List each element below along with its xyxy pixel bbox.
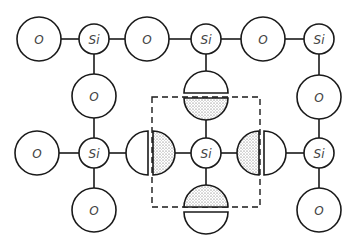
shared-oxygen-bottom <box>184 185 228 234</box>
shared-oxygen-left <box>126 131 175 175</box>
silicon-atom: Si <box>304 138 334 168</box>
silicon-atom: Si <box>79 138 109 168</box>
oxygen-atom: O <box>297 75 341 119</box>
svg-text:O: O <box>142 33 151 47</box>
svg-text:O: O <box>258 33 267 47</box>
oxygen-atom: O <box>72 188 116 232</box>
svg-text:O: O <box>32 147 41 161</box>
svg-text:Si: Si <box>201 147 213 161</box>
oxygen-atom: O <box>297 188 341 232</box>
oxygen-atom: O <box>125 17 169 61</box>
silica-network-diagram: O O O O O O O O Si Si Si Si <box>0 0 356 248</box>
oxygen-atom: O <box>17 17 61 61</box>
silicon-atom-central: Si <box>191 138 221 168</box>
silicon-atom: Si <box>191 24 221 54</box>
oxygen-atom: O <box>72 74 116 118</box>
svg-text:Si: Si <box>314 147 326 161</box>
svg-text:O: O <box>314 91 323 105</box>
oxygen-atom: O <box>15 131 59 175</box>
svg-text:Si: Si <box>314 33 326 47</box>
svg-text:Si: Si <box>89 33 101 47</box>
shared-oxygen-top <box>184 71 228 120</box>
svg-text:O: O <box>34 33 43 47</box>
svg-text:O: O <box>89 204 98 218</box>
svg-text:Si: Si <box>201 33 213 47</box>
shared-oxygen-right <box>237 131 286 175</box>
svg-text:Si: Si <box>89 147 101 161</box>
svg-text:O: O <box>89 90 98 104</box>
oxygen-atom: O <box>241 17 285 61</box>
silicon-atom: Si <box>304 24 334 54</box>
silicon-atom: Si <box>79 24 109 54</box>
svg-text:O: O <box>314 204 323 218</box>
